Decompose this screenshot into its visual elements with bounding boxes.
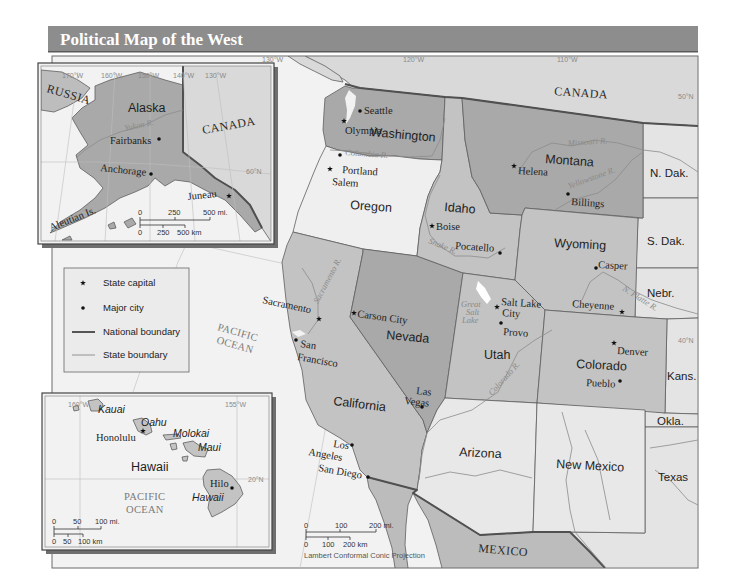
alaska-label: Alaska	[128, 101, 166, 115]
city-label: Helena	[518, 165, 549, 178]
city-dot-icon	[566, 192, 570, 196]
scale-mi-100: 100	[335, 521, 348, 530]
city-label: Casper	[598, 259, 628, 272]
lon-120w-label: 120°W	[403, 56, 424, 63]
scale-km-100: 100	[322, 540, 335, 549]
hawaii-lon-160w: 160°W	[68, 401, 89, 408]
hawaii-lon-155w: 155°W	[225, 401, 246, 408]
inset-scale-km-500: 500 km	[177, 228, 202, 237]
inset-lon-140w: 140°W	[173, 72, 194, 79]
city-label: Boise	[436, 221, 460, 232]
city-dot-icon	[618, 379, 622, 383]
city-dot-icon	[499, 321, 503, 325]
city-label: Honolulu	[96, 432, 136, 443]
city-seattle: Seattle	[358, 105, 393, 116]
legend-label: Major city	[103, 302, 144, 313]
state-n-dak	[643, 123, 698, 198]
city-label: Hilo	[210, 478, 229, 489]
hawaii-scale-mi-50: 50	[73, 517, 81, 526]
oahu-label: Oahu	[141, 416, 167, 428]
hawaii-pacific-label: PACIFIC	[124, 491, 165, 502]
hawaii-scale-km-50: 50	[63, 537, 71, 546]
colorado-label: Colorado	[576, 357, 627, 374]
oregon-label: Oregon	[350, 198, 393, 215]
city-dot-icon	[498, 251, 502, 255]
lon-110w-label: 110°W	[557, 56, 578, 63]
idaho-label: Idaho	[444, 200, 476, 217]
hawaii-scale-km-0: 0	[52, 537, 56, 546]
hawaii-scale-mi-100: 100 mi.	[95, 517, 120, 526]
map-legend: State capital Major city National bounda…	[64, 268, 189, 372]
city-label: Olympia	[345, 125, 382, 136]
city-label: Denver	[617, 345, 649, 358]
n-dak-label: N. Dak.	[650, 167, 688, 179]
maui-label: Maui	[198, 441, 221, 453]
lat-50n-label: 50°N	[678, 93, 694, 100]
scale-mi-200: 200 mi.	[369, 521, 394, 530]
city-dot-icon	[294, 338, 298, 342]
city-dot-icon	[338, 153, 342, 157]
state-s-dak	[636, 198, 698, 268]
city-dot-icon	[157, 137, 161, 141]
arizona-label: Arizona	[459, 445, 502, 461]
kauai-label: Kauai	[98, 403, 126, 415]
page-title: Political Map of the West	[60, 30, 243, 49]
lon-130w-label: 130°W	[262, 56, 283, 63]
city-dot-icon	[149, 172, 153, 176]
city-label-line1: Los	[333, 438, 350, 451]
wyoming-label: Wyoming	[554, 236, 607, 253]
scale-mi-0: 0	[304, 521, 308, 530]
legend-label: National boundary	[103, 326, 180, 337]
city-label: Provo	[503, 326, 529, 339]
hawaii-ocean-label: OCEAN	[126, 504, 164, 515]
title-bar: Political Map of the West	[48, 26, 698, 53]
city-label: Billings	[571, 196, 605, 209]
nebr-label: Nebr.	[647, 287, 675, 299]
city-dot-icon	[366, 475, 370, 479]
island-kahoolawe	[182, 456, 188, 461]
state-kans	[665, 318, 698, 414]
great-salt-lake-label-3: Lake	[461, 315, 479, 325]
projection-label: Lambert Conformal Conic Projection	[304, 551, 425, 560]
hawaii-lat-20n: 20°N	[248, 476, 264, 483]
hawaii-island-label: Hawaii	[192, 491, 224, 503]
city-dot-icon	[350, 443, 354, 447]
inset-scale-mi-0: 0	[138, 208, 142, 217]
scale-km-0: 0	[304, 540, 308, 549]
inset-lon-160w: 160°W	[101, 72, 122, 79]
city-dot-icon	[81, 306, 85, 310]
legend-label: State capital	[103, 277, 155, 288]
inset-lon-130w: 130°W	[205, 72, 226, 79]
utah-label: Utah	[484, 348, 510, 362]
inset-lon-150w: 150°W	[138, 72, 159, 79]
inset-lat-60n: 60°N	[246, 168, 262, 175]
city-label: Salem	[332, 176, 359, 189]
city-label: Seattle	[364, 105, 393, 116]
texas-label: Texas	[658, 471, 688, 483]
molokai-label: Molokai	[173, 427, 210, 439]
alaska-inset: 170°W 160°W 150°W 140°W 130°W 60°N RUSSI…	[38, 63, 278, 248]
city-label-line1: San	[300, 338, 318, 351]
city-label: Pueblo	[586, 377, 616, 390]
lat-40n-label: 40°N	[678, 337, 694, 344]
city-casper: Casper	[594, 259, 628, 272]
city-label-line2: City	[502, 307, 522, 319]
s-dak-label: S. Dak.	[647, 235, 685, 247]
okla-label: Okla.	[657, 415, 684, 427]
inset-scale-km-0: 0	[138, 228, 142, 237]
city-dot-icon	[230, 486, 234, 490]
inset-scale-km-250: 250	[157, 228, 170, 237]
inset-scale-mi-250: 250	[168, 208, 181, 217]
hawaii-inset: 160°W 155°W 20°N Kauai Oahu Molokai Maui…	[42, 393, 276, 554]
scale-km-200: 200 km	[343, 540, 368, 549]
inset-scale-mi-500: 500 mi.	[203, 208, 228, 217]
city-label: Fairbanks	[110, 135, 151, 146]
city-dot-icon	[358, 109, 362, 113]
inset-lon-170w: 170°W	[62, 72, 83, 79]
legend-label: State boundary	[103, 349, 168, 360]
hawaii-state-label: Hawaii	[131, 460, 169, 474]
hawaii-scale-mi-0: 0	[52, 517, 56, 526]
political-map-figure: Political Map of the West	[0, 0, 730, 588]
hawaii-scale-km-100: 100 km	[78, 537, 103, 546]
kans-label: Kans.	[667, 370, 696, 382]
